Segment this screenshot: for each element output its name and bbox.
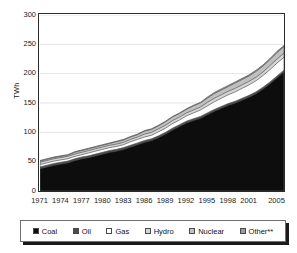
legend-item-coal[interactable]: Coal: [33, 227, 57, 236]
gas-swatch: [106, 228, 112, 234]
legend-label: Other**: [249, 227, 274, 236]
x-axis-tick-label: 1989: [157, 196, 174, 205]
y-axis-tick-label: 0: [2, 187, 36, 195]
y-axis-tick-label: 250: [2, 40, 36, 48]
x-axis-tick-label: 1983: [115, 196, 132, 205]
legend-item-other[interactable]: Other**: [240, 227, 274, 236]
x-axis-tick-label: 2005: [268, 196, 285, 205]
y-axis: TWh 300250200150100500: [0, 0, 36, 253]
chart-legend: CoalOilGasHydroNuclearOther**: [20, 220, 286, 242]
other-swatch: [240, 228, 246, 234]
legend-item-oil[interactable]: Oil: [73, 227, 91, 236]
x-axis: 1971197419771980198319861989199219951998…: [38, 196, 285, 208]
x-axis-tick-label: 1995: [198, 196, 215, 205]
legend-item-hydro[interactable]: Hydro: [145, 227, 174, 236]
legend-item-nuclear[interactable]: Nuclear: [189, 227, 224, 236]
hydro-swatch: [145, 228, 151, 234]
y-axis-tick-label: 300: [2, 11, 36, 19]
coal-swatch: [33, 228, 39, 234]
x-axis-tick-label: 1977: [73, 196, 90, 205]
y-axis-tick-label: 100: [2, 128, 36, 136]
plot-area: [38, 13, 285, 192]
x-axis-tick-label: 1974: [52, 196, 69, 205]
legend-label: Coal: [42, 227, 57, 236]
y-axis-tick-label: 200: [2, 69, 36, 77]
oil-swatch: [73, 228, 79, 234]
legend-label: Gas: [115, 227, 129, 236]
chart-figure: TWh 300250200150100500 19711974197719801…: [0, 0, 297, 253]
x-axis-tick-label: 1971: [31, 196, 48, 205]
y-axis-tick-label: 150: [2, 99, 36, 107]
stacked-area-svg: [40, 15, 284, 191]
legend-label: Oil: [82, 227, 91, 236]
x-axis-tick-label: 1986: [136, 196, 153, 205]
y-axis-tick-label: 50: [2, 157, 36, 165]
legend-label: Hydro: [154, 227, 174, 236]
x-axis-tick-label: 2001: [240, 196, 257, 205]
legend-item-gas[interactable]: Gas: [106, 227, 129, 236]
nuclear-swatch: [189, 228, 195, 234]
x-axis-tick-label: 1998: [219, 196, 236, 205]
x-axis-tick-label: 1980: [94, 196, 111, 205]
legend-label: Nuclear: [198, 227, 224, 236]
x-axis-tick-label: 1992: [178, 196, 195, 205]
